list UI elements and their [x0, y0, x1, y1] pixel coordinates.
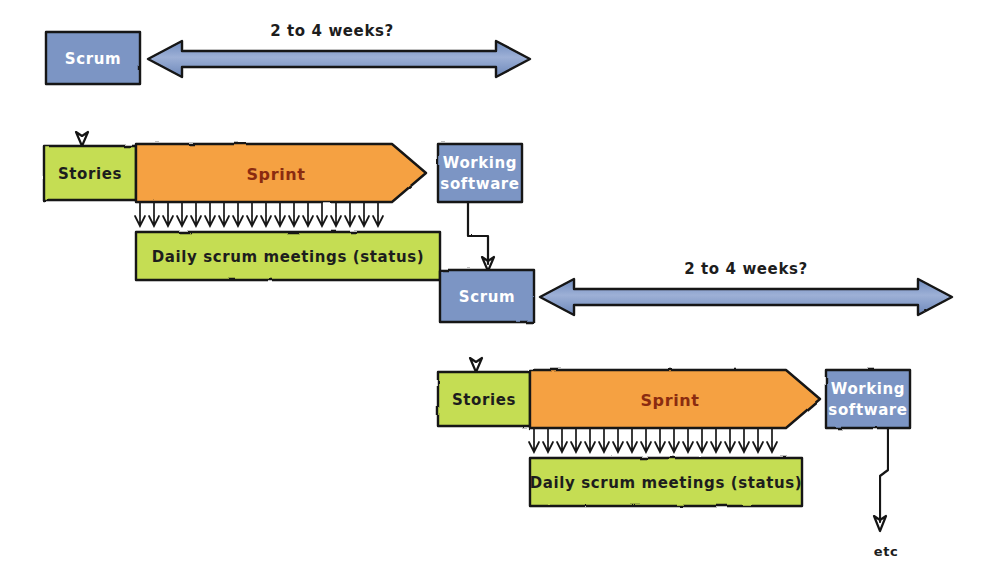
working-software-box-2-shape	[826, 370, 910, 428]
connector-scrum1-to-stories1	[76, 84, 88, 146]
scrum-box-2-label: Scrum	[459, 288, 515, 306]
scrum-diagram: Scrum 2 to 4 weeks? Stories Sprint	[0, 0, 984, 584]
connector-scrum2-to-stories2	[470, 322, 482, 372]
cycle-2-group: Scrum 2 to 4 weeks? Stories Sprint	[438, 260, 952, 559]
etc-label: etc	[874, 544, 899, 559]
working-software-box-2[interactable]: Working software	[826, 370, 910, 428]
sprint-arrow-2-label: Sprint	[641, 391, 700, 410]
duration-arrow-1-shape	[148, 41, 530, 77]
connector-working2-line	[880, 428, 888, 522]
daily-scrum-box-1-label: Daily scrum meetings (status)	[152, 248, 425, 266]
daily-scrum-box-2-label: Daily scrum meetings (status)	[530, 474, 803, 492]
scrum-box-1-label: Scrum	[65, 50, 121, 68]
daily-scrum-box-2[interactable]: Daily scrum meetings (status)	[530, 458, 803, 506]
sprint-2-tick-arrows	[529, 428, 777, 452]
scrum-box-2[interactable]: Scrum	[440, 270, 534, 322]
stories-box-1[interactable]: Stories	[44, 146, 136, 200]
sprint-arrow-2[interactable]: Sprint	[530, 370, 820, 428]
duration-arrow-1: 2 to 4 weeks?	[148, 22, 530, 77]
working-software-box-1-line2: software	[440, 175, 519, 193]
cycle-1-group: Scrum 2 to 4 weeks? Stories Sprint	[44, 22, 530, 280]
stories-box-2-label: Stories	[452, 391, 516, 409]
working-software-box-1[interactable]: Working software	[438, 144, 522, 202]
daily-scrum-box-1[interactable]: Daily scrum meetings (status)	[136, 232, 440, 280]
sprint-arrow-1-label: Sprint	[247, 165, 306, 184]
connector-working2-to-etc	[874, 428, 888, 531]
duration-arrow-2-shape	[540, 279, 952, 315]
working-software-box-2-line1: Working	[831, 380, 905, 398]
duration-arrow-2-label: 2 to 4 weeks?	[684, 260, 808, 278]
working-software-box-1-line1: Working	[443, 154, 517, 172]
duration-arrow-2: 2 to 4 weeks?	[540, 260, 952, 315]
diagram-canvas: Scrum 2 to 4 weeks? Stories Sprint	[0, 0, 984, 584]
stories-box-1-label: Stories	[58, 165, 122, 183]
working-software-box-1-shape	[438, 144, 522, 202]
connector-working1-to-scrum2	[468, 202, 494, 271]
working-software-box-2-line2: software	[828, 401, 907, 419]
scrum-box-1[interactable]: Scrum	[46, 32, 140, 84]
stories-box-2[interactable]: Stories	[438, 372, 530, 426]
connector-working1-line	[468, 202, 488, 264]
duration-arrow-1-label: 2 to 4 weeks?	[270, 22, 394, 40]
sprint-arrow-1[interactable]: Sprint	[136, 144, 426, 202]
sprint-1-tick-arrows	[135, 202, 383, 226]
